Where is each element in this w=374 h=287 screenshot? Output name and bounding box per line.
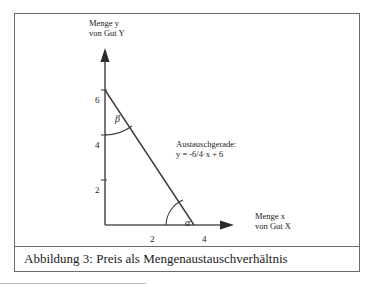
y-tick-label-2: 2: [95, 185, 100, 195]
exchange-line-label: Austauschgerade:y = -6/4·x + 6: [176, 139, 236, 159]
exchange-line-label-line1: Austauschgerade:: [176, 139, 236, 149]
figure-box: Menge yvon Gut Y Menge xvon Gut X 6 4 2 …: [14, 13, 360, 272]
x-tick-label-2: 2: [150, 234, 155, 244]
coordinate-system-svg: [15, 14, 359, 246]
angle-beta-label: β: [115, 113, 120, 124]
y-tick-label-6: 6: [95, 95, 100, 105]
exchange-line-equation: y = -6/4·x + 6: [176, 149, 223, 159]
plot-area: Menge yvon Gut Y Menge xvon Gut X 6 4 2 …: [15, 14, 359, 246]
y-axis-label: Menge yvon Gut Y: [89, 18, 125, 38]
page-bottom-rule: [0, 283, 146, 284]
x-axis-label-line2: von Gut X: [255, 221, 291, 231]
caption-text: Abbildung 3: Preis als Mengenaustauschve…: [15, 251, 288, 267]
x-axis-label-line1: Menge x: [255, 211, 285, 221]
y-axis-label-line2: von Gut Y: [89, 28, 125, 38]
y-axis-arrowhead: [101, 48, 110, 62]
y-axis-label-line1: Menge y: [89, 18, 119, 28]
x-axis-arrowhead: [220, 221, 234, 230]
angle-beta-arc: [105, 126, 132, 135]
x-tick-label-4: 4: [202, 234, 207, 244]
x-axis-label: Menge xvon Gut X: [255, 211, 291, 231]
angle-alpha-label: α: [185, 217, 190, 228]
caption-bar: Abbildung 3: Preis als Mengenaustauschve…: [15, 247, 359, 271]
y-tick-label-4: 4: [95, 140, 100, 150]
